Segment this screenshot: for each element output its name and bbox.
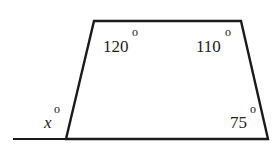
angle-exterior-x: x — [43, 113, 52, 132]
angle-exterior-degree: o — [54, 102, 60, 116]
angle-bottom-right-value: 75 — [230, 113, 247, 132]
angle-top-left-degree: o — [132, 25, 138, 39]
angle-top-left-value: 120 — [103, 37, 129, 56]
angle-bottom-right-degree: o — [250, 102, 256, 116]
angle-top-right-value: 110 — [196, 37, 221, 56]
quadrilateral-diagram: 120 o 110 o 75 o x o — [0, 0, 278, 147]
angle-top-right-degree: o — [225, 25, 231, 39]
